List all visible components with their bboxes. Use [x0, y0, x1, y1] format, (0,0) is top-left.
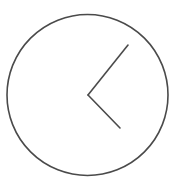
clock-hand-lower	[88, 95, 120, 128]
clock-icon	[0, 0, 176, 192]
clock-figure: clock icon	[0, 0, 176, 192]
clock-hand-upper	[88, 45, 128, 95]
